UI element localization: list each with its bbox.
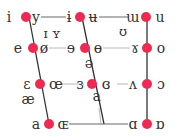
vowel-close-central-unrounded: ɨ	[67, 9, 72, 25]
vowel-close-mid-front-rounded: ø	[40, 40, 48, 56]
vowel-close-mid-central-unrounded: ɘ	[67, 40, 75, 56]
vowel-open-mid-central-unrounded: ɜ	[76, 76, 83, 92]
dot-close-central	[75, 12, 85, 22]
dot-open-mid-front	[35, 79, 45, 89]
dot-open-mid-central	[87, 79, 97, 89]
dot-close-mid-front	[28, 43, 38, 53]
vowel-close-mid-back-unrounded: ɤ	[131, 40, 139, 56]
vowel-near-open-front: æ	[21, 91, 34, 107]
dot-close-front	[21, 12, 31, 22]
dot-open-back	[142, 119, 152, 129]
vowel-close-front-rounded: y	[31, 9, 40, 25]
vowel-close-mid-central-rounded: ɵ	[94, 40, 102, 56]
dot-open-front	[44, 119, 54, 129]
vowel-close-central-rounded: ʉ	[88, 9, 97, 25]
vowel-open-front-rounded: ɶ	[57, 116, 68, 132]
vowel-close-mid-back-rounded: o	[157, 40, 165, 56]
vowel-close-mid-front-unrounded: e	[14, 40, 22, 56]
vowel-close-back-unrounded: ɯ	[126, 9, 139, 25]
vowel-near-close-back: ʊ	[119, 24, 127, 39]
dot-close-back	[141, 12, 151, 22]
vowel-open-back-unrounded: ɑ	[129, 116, 138, 132]
vowel-near-open-central: ɐ	[93, 90, 101, 106]
vowel-mid-central: ə	[85, 55, 93, 71]
vowel-close-back-rounded: u	[155, 9, 164, 25]
vowel-close-front-unrounded: i	[7, 9, 12, 25]
dot-open-mid-back	[142, 79, 152, 89]
vowel-open-mid-back-rounded: ɔ	[157, 76, 165, 92]
vowel-open-back-rounded: ɒ	[156, 116, 165, 132]
dot-close-mid-back	[142, 43, 152, 53]
vowel-chart: i y ɨ ʉ ɯ u ɪ ʏ ʊ e ø ɘ ɵ ɤ o ə ɛ œ ɜ ɞ …	[0, 0, 176, 139]
vowel-open-mid-front-unrounded: ɛ	[23, 76, 30, 92]
vowel-open-front-unrounded: a	[32, 116, 40, 132]
vowel-open-mid-back-unrounded: ʌ	[128, 76, 137, 92]
dot-close-mid-central	[80, 43, 90, 53]
vowel-near-close-front: ɪ ʏ	[44, 26, 61, 41]
vowel-open-mid-central-rounded: ɞ	[102, 76, 111, 92]
vowel-open-mid-front-rounded: œ	[49, 76, 63, 92]
